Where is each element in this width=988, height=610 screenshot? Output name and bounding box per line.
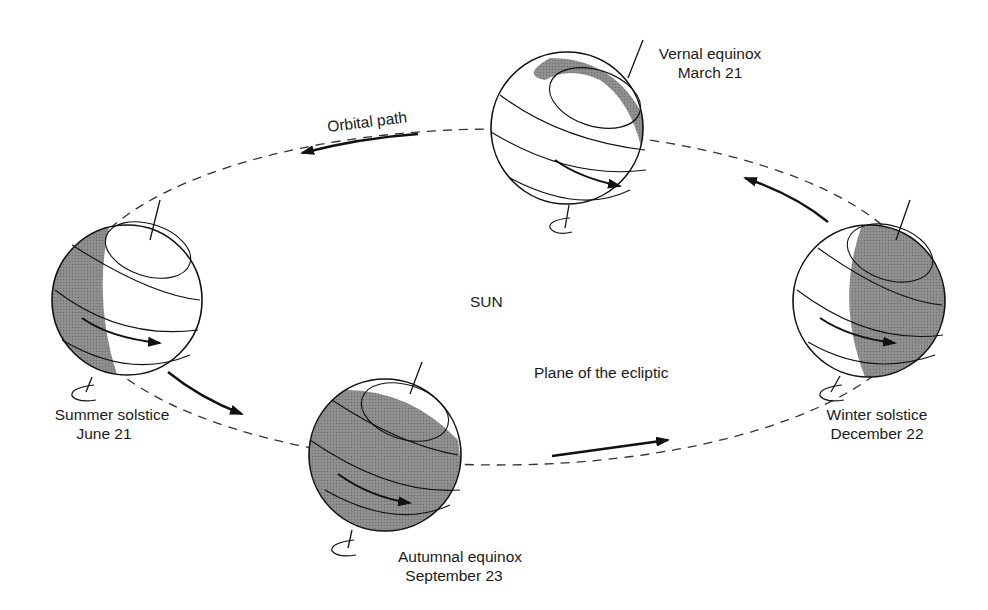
rotation-icon — [820, 385, 844, 401]
summer-name-label: Summer solstice — [55, 406, 170, 423]
globe-summer-solstice — [40, 200, 202, 401]
winter-date-label: December 22 — [830, 425, 923, 442]
winter-name-label: Winter solstice — [827, 406, 928, 423]
orbit-arrow-bottom — [552, 440, 668, 456]
vernal-name-label: Vernal equinox — [659, 45, 762, 62]
orbit-arrow-right — [745, 178, 828, 222]
rotation-icon — [550, 218, 572, 233]
vernal-date-label: March 21 — [678, 64, 743, 81]
globe-winter-solstice — [793, 200, 960, 401]
orbit-label: Orbital path — [326, 108, 408, 135]
sun-label: SUN — [470, 293, 503, 310]
orbit-arrow-left — [168, 372, 242, 414]
autumnal-date-label: September 23 — [405, 567, 502, 584]
rotation-icon — [332, 540, 356, 556]
rotation-icon — [72, 385, 96, 401]
orbit-diagram: Orbital path SUN Plane of the ecliptic V… — [0, 0, 988, 610]
globe-autumnal-equinox — [300, 362, 470, 556]
autumnal-name-label: Autumnal equinox — [398, 548, 522, 565]
summer-date-label: June 21 — [76, 425, 131, 442]
night-shading — [849, 225, 960, 377]
plane-label: Plane of the ecliptic — [534, 364, 669, 381]
orbit-arrow-top — [302, 134, 418, 153]
globe-vernal-equinox — [491, 40, 648, 233]
